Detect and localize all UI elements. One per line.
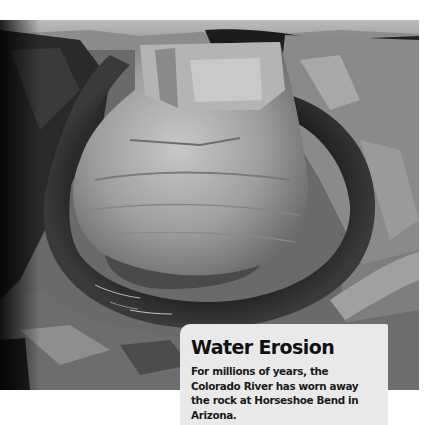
caption-box: Water Erosion For millions of years, the… xyxy=(180,324,388,425)
caption-body: For millions of years, the Colorado Rive… xyxy=(191,364,378,422)
caption-title: Water Erosion xyxy=(191,336,378,358)
